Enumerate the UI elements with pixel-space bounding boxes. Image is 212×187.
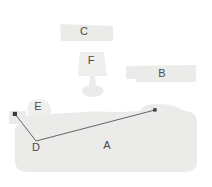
measurement-end-marker[interactable] (153, 108, 156, 111)
region-f-lamp-base[interactable] (82, 85, 104, 97)
figure-svg: A B C D E F (0, 0, 212, 187)
region-label-d: D (32, 141, 40, 153)
diagram-canvas: A B C D E F (0, 0, 212, 187)
measurement-start-marker[interactable] (13, 112, 17, 116)
region-label-c: C (80, 25, 88, 37)
region-f-lamp-stem[interactable] (89, 76, 96, 86)
region-label-a: A (103, 139, 111, 151)
region-label-e: E (34, 100, 41, 112)
region-label-b: B (158, 67, 165, 79)
region-label-f: F (88, 54, 95, 66)
